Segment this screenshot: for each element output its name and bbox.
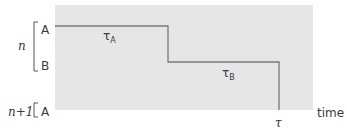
row-b-label: B [41, 60, 49, 72]
row-a-label: A [41, 24, 49, 36]
group-n-label: n [18, 40, 26, 52]
bracket-n1 [34, 103, 38, 117]
step-line [0, 0, 347, 132]
tau-total-label: τ [275, 117, 282, 129]
time-axis-label: time [317, 107, 344, 119]
tau-b-label: τB [222, 67, 235, 84]
tau-a-label: τA [103, 30, 116, 47]
bracket-n [34, 22, 38, 71]
row-a-next-label: A [41, 106, 49, 118]
group-n1-label: n+1 [8, 106, 33, 118]
